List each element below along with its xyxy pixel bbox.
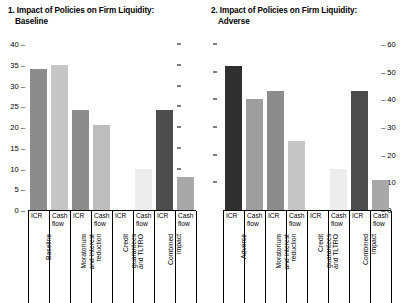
- label-column: ICRCredit guarantees and TLTRO: [113, 211, 134, 303]
- panel-title-1-line2: Baseline: [8, 17, 196, 28]
- label-columns: ICRAdverseCash flowICRMoratorium and int…: [224, 211, 392, 303]
- y-tick-mark: [213, 44, 217, 45]
- x-axis-label-grid-2: ICRAdverseCash flowICRMoratorium and int…: [223, 211, 392, 303]
- group-label-slot: [371, 232, 391, 303]
- label-column: Cash flow: [50, 211, 71, 303]
- panel-adverse: 2. Impact of Policies on Firm Liquidity:…: [203, 0, 406, 303]
- y-tick-label: 0 –: [14, 206, 25, 215]
- bar-cell: [370, 44, 391, 210]
- bar: [225, 66, 242, 210]
- label-columns: ICRBaselineCash flowICRMoratorium and in…: [29, 211, 197, 303]
- bar: [267, 91, 284, 210]
- group-label-slot: Baseline: [29, 232, 49, 303]
- group-label-slot: [287, 232, 307, 303]
- y-axis-ticks-left: 0 –5 –10 –15 –20 –25 –30 –35 –40 –: [0, 44, 26, 211]
- series-label: Cash flow: [371, 211, 391, 232]
- group-label-slot: Credit guarantees and TLTRO: [113, 232, 133, 303]
- bar-cell: [112, 44, 133, 210]
- series-label: ICR: [155, 211, 175, 232]
- bar-cell: [223, 44, 244, 210]
- group-label-slot: [50, 232, 70, 303]
- series-label: ICR: [29, 211, 49, 232]
- label-column: Cash flow: [245, 211, 266, 303]
- bar: [330, 169, 347, 211]
- bar: [72, 110, 89, 210]
- group-label-slot: Adverse: [224, 232, 244, 303]
- panel-baseline: 1. Impact of Policies on Firm Liquidity:…: [0, 0, 203, 303]
- bar: [177, 177, 194, 210]
- bar-cell: [28, 44, 49, 210]
- series-label: Cash flow: [245, 211, 265, 232]
- series-label: ICR: [113, 211, 133, 232]
- label-column: ICRCredit guarantees and TLTRO: [308, 211, 329, 303]
- bar-cell: [70, 44, 91, 210]
- bar: [351, 91, 368, 210]
- bar-cell: [175, 44, 196, 210]
- bar: [51, 65, 68, 210]
- series-label: Cash flow: [176, 211, 196, 232]
- y-tick-mark: [213, 154, 217, 155]
- label-column: ICRCombined impact: [350, 211, 371, 303]
- bar: [135, 169, 152, 211]
- bar-series-2: [223, 44, 391, 210]
- y-tick-label: 10 –: [10, 164, 25, 173]
- label-column: Cash flow: [134, 211, 155, 303]
- group-label-slot: Moratorium and interest reduction: [71, 232, 91, 303]
- group-label-slot: Credit guarantees and TLTRO: [308, 232, 328, 303]
- y-tick-mark: [213, 71, 217, 72]
- bar-cell: [307, 44, 328, 210]
- series-label: ICR: [71, 211, 91, 232]
- y-tick-label: 40 –: [10, 40, 25, 49]
- group-label-slot: [176, 232, 196, 303]
- series-label: ICR: [308, 211, 328, 232]
- series-label: Cash flow: [50, 211, 70, 232]
- plot-area-1: [28, 44, 196, 211]
- label-column: Cash flow: [287, 211, 308, 303]
- series-label: ICR: [350, 211, 370, 232]
- bar: [156, 110, 173, 210]
- bar: [93, 125, 110, 210]
- y-tick-label: 35 –: [10, 60, 25, 69]
- group-label-slot: Combined impact: [350, 232, 370, 303]
- label-column: Cash flow: [371, 211, 392, 303]
- x-axis-label-grid-1: ICRBaselineCash flowICRMoratorium and in…: [28, 211, 197, 303]
- series-label: ICR: [266, 211, 286, 232]
- label-column: Cash flow: [329, 211, 350, 303]
- y-tick-label: 15 –: [10, 143, 25, 152]
- label-column: ICRCombined impact: [155, 211, 176, 303]
- group-label-slot: [134, 232, 154, 303]
- panel-title-2: 2. Impact of Policies on Firm Liquidity:…: [211, 6, 399, 27]
- bar-cell: [154, 44, 175, 210]
- bar-cell: [49, 44, 70, 210]
- bar: [246, 99, 263, 210]
- bar-cell: [91, 44, 112, 210]
- series-label: Cash flow: [134, 211, 154, 232]
- series-label: Cash flow: [287, 211, 307, 232]
- group-label-slot: [245, 232, 265, 303]
- panel-title-2-line2: Adverse: [211, 17, 399, 28]
- bar-series-1: [28, 44, 196, 210]
- y-axis-dashes-left: [213, 44, 221, 211]
- y-tick-mark: [213, 127, 217, 128]
- bar-cell: [349, 44, 370, 210]
- bar: [288, 141, 305, 210]
- bar-cell: [286, 44, 307, 210]
- y-tick-label: 5 –: [14, 185, 25, 194]
- series-label: Cash flow: [329, 211, 349, 232]
- bar-cell: [328, 44, 349, 210]
- y-tick-mark: [213, 182, 217, 183]
- bar-cell: [265, 44, 286, 210]
- series-label: ICR: [224, 211, 244, 232]
- y-tick-label: 20 –: [10, 123, 25, 132]
- panel-title-1: 1. Impact of Policies on Firm Liquidity:…: [8, 6, 196, 27]
- group-label-slot: [329, 232, 349, 303]
- label-column: Cash flow: [176, 211, 197, 303]
- bar: [30, 69, 47, 210]
- y-tick-mark: [213, 99, 217, 100]
- y-tick-label: 30 –: [10, 81, 25, 90]
- panel-title-1-line1: 1. Impact of Policies on Firm Liquidity:: [8, 6, 154, 15]
- bar: [372, 180, 389, 210]
- label-column: ICRMoratorium and interest reduction: [266, 211, 287, 303]
- bar-cell: [133, 44, 154, 210]
- plot-area-2: [223, 44, 391, 211]
